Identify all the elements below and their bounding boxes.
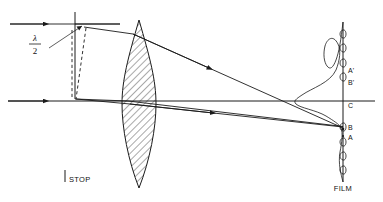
marker-point-b xyxy=(342,128,345,131)
stop-label: STOP xyxy=(69,175,90,184)
label-b-prime: B' xyxy=(348,79,354,86)
lambda-symbol: λ xyxy=(32,33,37,43)
wavefront-dashed-lines xyxy=(72,28,86,99)
marker-point-a xyxy=(342,135,344,137)
label-a: A xyxy=(348,134,353,141)
stop-caption: STOP xyxy=(65,170,90,184)
converging-rays xyxy=(128,34,343,128)
film-caption: FILM xyxy=(334,184,352,193)
optics-ray-diagram: λ 2 xyxy=(0,0,383,202)
film-label: FILM xyxy=(334,184,352,193)
film-point-labels: A' B' C B A xyxy=(348,67,354,141)
lambda-leader-line xyxy=(49,26,82,48)
label-a-prime: A' xyxy=(348,67,354,74)
lambda-over-two-label: λ 2 xyxy=(29,33,41,56)
label-b: B xyxy=(348,124,353,131)
intensity-curve xyxy=(295,22,343,182)
lambda-denominator: 2 xyxy=(33,46,38,56)
diagram-canvas: λ 2 xyxy=(0,0,383,202)
label-c: C xyxy=(348,102,353,109)
